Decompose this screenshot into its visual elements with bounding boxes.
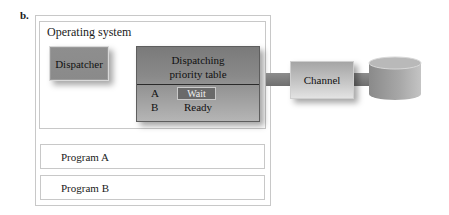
program-b-region: Program B [40,175,265,200]
priority-table-title-line1: Dispatching [137,53,259,67]
dispatcher-label: Dispatcher [55,58,103,70]
row-a-state-badge: Wait [177,87,216,100]
priority-table-title-line2: priority table [137,67,259,81]
row-a-state: Wait [187,88,206,99]
program-b-label: Program B [61,182,109,194]
row-b-state: Ready [184,101,212,113]
channel-box: Channel [290,61,354,99]
dispatching-priority-table: Dispatching priority table A Wait B Read… [136,46,260,122]
row-b-program: B [151,101,158,113]
priority-table-title: Dispatching priority table [137,53,259,81]
disk-cylinder-icon [367,56,423,102]
figure-label: b. [20,9,29,21]
program-a-region: Program A [40,144,265,169]
dispatcher-box: Dispatcher [49,46,109,81]
table-divider [137,84,259,85]
operating-system-title: Operating system [47,25,131,40]
channel-label: Channel [304,74,341,86]
row-a-program: A [151,87,159,99]
program-a-label: Program A [61,151,109,163]
